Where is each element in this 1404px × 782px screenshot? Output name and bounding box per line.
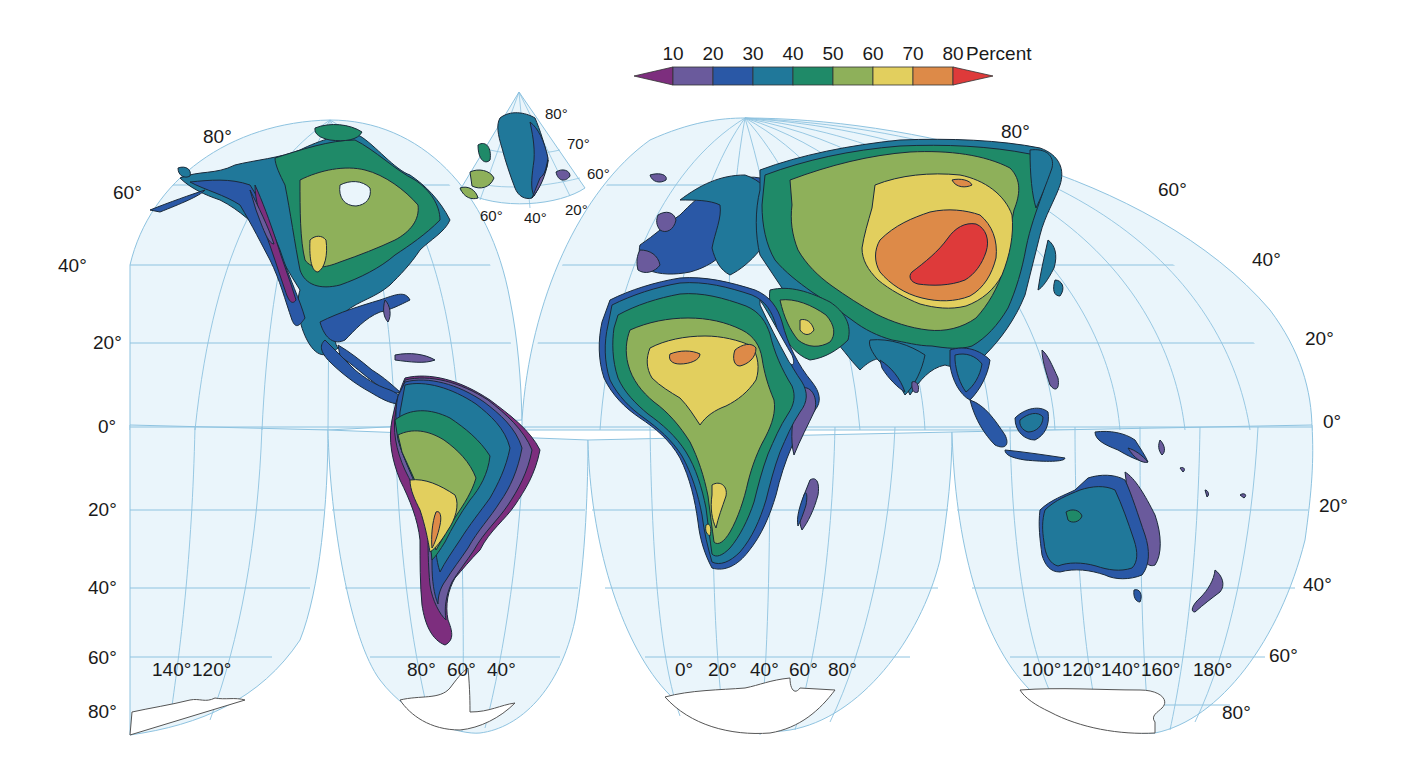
- lon-label-20e: 20°: [708, 660, 737, 679]
- legend-tick-30: 30: [742, 44, 763, 63]
- lat-label-left-40n: 40°: [58, 256, 87, 275]
- legend-swatch-30-40: [753, 67, 793, 85]
- legend-unit: Percent: [966, 44, 1031, 63]
- legend-tick-60: 60: [862, 44, 883, 63]
- legend-tick-40: 40: [782, 44, 803, 63]
- lat-label-right-60n: 60°: [1158, 180, 1187, 199]
- legend-swatch-20-30: [713, 67, 753, 85]
- lat-label-right-0: 0°: [1323, 412, 1341, 431]
- lat-label-right-80s: 80°: [1222, 703, 1251, 722]
- lon-label-180: 180°: [1193, 660, 1232, 679]
- lon-label-140e: 140°: [1101, 660, 1140, 679]
- lon-label-80e: 80°: [828, 660, 857, 679]
- lat-label-left-60n: 60°: [113, 183, 142, 202]
- lat-label-right-60s: 60°: [1269, 646, 1298, 665]
- lat-label-left-80s: 80°: [88, 702, 117, 721]
- inset-lon-label-20: 20°: [565, 202, 588, 217]
- lat-label-left-20s: 20°: [88, 500, 117, 519]
- legend-tick-50: 50: [822, 44, 843, 63]
- legend-swatch-60-70: [873, 67, 913, 85]
- lon-label-0: 0°: [675, 660, 693, 679]
- lobe-south-pacific-west: [130, 425, 328, 735]
- legend-swatch-10-20: [673, 67, 713, 85]
- lat-label-right-20s: 20°: [1319, 496, 1348, 515]
- legend-swatch-70-80: [913, 67, 953, 85]
- lat-label-right-40s: 40°: [1303, 575, 1332, 594]
- lat-label-left-40s: 40°: [88, 578, 117, 597]
- lat-label-left-80n: 80°: [203, 127, 232, 146]
- inset-lat-label-70: 70°: [567, 136, 590, 151]
- legend-swatch-gt80: [953, 67, 993, 85]
- inset-lon-label-60: 60°: [480, 208, 503, 223]
- inset-lon-label-40: 40°: [524, 210, 547, 225]
- lon-label-40w: 40°: [487, 660, 516, 679]
- lat-label-right-20n: 20°: [1305, 329, 1334, 348]
- legend-swatch-lt10: [634, 67, 673, 85]
- inset-lat-label-80: 80°: [545, 106, 568, 121]
- lon-label-80w: 80°: [407, 660, 436, 679]
- lon-label-160e: 160°: [1141, 660, 1180, 679]
- color-legend: 10 20 30 40 50 60 70 80 Percent: [634, 44, 1034, 84]
- legend-tick-10: 10: [662, 44, 683, 63]
- legend-swatch-50-60: [833, 67, 873, 85]
- inset-lat-label-60: 60°: [587, 166, 610, 181]
- lon-label-140: 140°: [152, 660, 191, 679]
- lat-label-right-80n: 80°: [1001, 122, 1030, 141]
- lon-label-120e: 120°: [1062, 660, 1101, 679]
- lon-label-60w: 60°: [447, 660, 476, 679]
- lon-label-60e: 60°: [789, 660, 818, 679]
- lobe-australia: [952, 425, 1313, 733]
- legend-tick-70: 70: [902, 44, 923, 63]
- legend-tick-80: 80: [942, 44, 963, 63]
- legend-swatch-40-50: [793, 67, 833, 85]
- legend-color-bar: [634, 66, 1034, 86]
- antarctica: [130, 668, 1165, 735]
- lat-label-right-40n: 40°: [1252, 250, 1281, 269]
- lon-label-100e: 100°: [1022, 660, 1061, 679]
- lon-label-40e: 40°: [750, 660, 779, 679]
- lat-label-left-60s: 60°: [88, 648, 117, 667]
- lon-label-120: 120°: [192, 660, 231, 679]
- lat-label-left-20n: 20°: [93, 333, 122, 352]
- legend-tick-20: 20: [702, 44, 723, 63]
- lat-label-left-0: 0°: [98, 417, 116, 436]
